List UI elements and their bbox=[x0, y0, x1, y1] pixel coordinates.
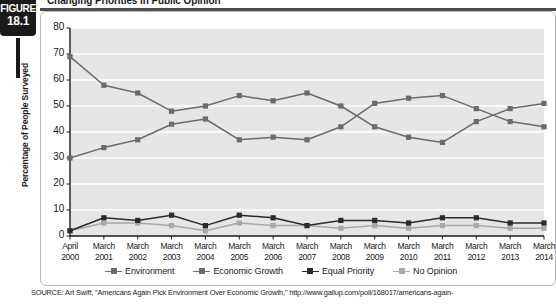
figure-badge-stem bbox=[16, 36, 20, 78]
data-point-marker bbox=[541, 101, 546, 106]
y-axis-tick-label: 30 bbox=[38, 151, 64, 162]
y-axis-tick-label: 20 bbox=[38, 177, 64, 188]
data-point-marker bbox=[508, 226, 513, 231]
data-point-marker bbox=[372, 218, 377, 223]
data-point-marker bbox=[338, 103, 343, 108]
data-point-marker bbox=[440, 140, 445, 145]
legend-item-equal-priority[interactable]: Equal Priority bbox=[302, 266, 374, 276]
data-point-marker bbox=[474, 106, 479, 111]
data-point-marker bbox=[101, 145, 106, 150]
legend-marker-icon bbox=[302, 267, 319, 276]
data-point-marker bbox=[135, 137, 140, 142]
data-point-marker bbox=[474, 215, 479, 220]
y-axis-tick-label: 60 bbox=[38, 73, 64, 84]
data-point-marker bbox=[135, 218, 140, 223]
data-point-marker bbox=[203, 223, 208, 228]
x-axis-tick-label: March2014 bbox=[524, 241, 556, 263]
legend-square bbox=[111, 268, 117, 274]
data-point-marker bbox=[406, 220, 411, 225]
chart-legend: EnvironmentEconomic GrowthEqual Priority… bbox=[105, 266, 457, 276]
data-point-marker bbox=[169, 213, 174, 218]
legend-label: Equal Priority bbox=[322, 266, 374, 276]
data-point-marker bbox=[101, 83, 106, 88]
data-point-marker bbox=[304, 223, 309, 228]
data-point-marker bbox=[237, 213, 242, 218]
legend-marker-icon bbox=[105, 267, 122, 276]
y-axis-tick-label: 40 bbox=[38, 125, 64, 136]
data-point-marker bbox=[237, 137, 242, 142]
data-point-marker bbox=[406, 96, 411, 101]
data-point-marker bbox=[67, 228, 72, 233]
x-tick-month: March bbox=[524, 241, 556, 252]
legend-square bbox=[199, 268, 205, 274]
data-point-marker bbox=[541, 124, 546, 129]
figure-badge-number: 18.1 bbox=[0, 15, 36, 28]
line-chart: Percentage of People Surveyed 0102030405… bbox=[0, 0, 556, 306]
data-point-marker bbox=[101, 220, 106, 225]
data-point-marker bbox=[237, 93, 242, 98]
data-point-marker bbox=[541, 220, 546, 225]
data-point-marker bbox=[203, 116, 208, 121]
data-point-marker bbox=[135, 90, 140, 95]
data-point-marker bbox=[440, 223, 445, 228]
data-point-marker bbox=[440, 93, 445, 98]
data-point-marker bbox=[271, 223, 276, 228]
data-point-marker bbox=[169, 223, 174, 228]
data-point-marker bbox=[338, 124, 343, 129]
data-point-marker bbox=[508, 220, 513, 225]
data-point-marker bbox=[203, 103, 208, 108]
legend-marker-icon bbox=[393, 267, 410, 276]
data-point-marker bbox=[338, 218, 343, 223]
legend-label: No Opinion bbox=[413, 266, 457, 276]
figure-badge: FIGURE 18.1 bbox=[0, 0, 36, 36]
data-point-marker bbox=[508, 119, 513, 124]
legend-marker-icon bbox=[193, 267, 210, 276]
data-point-marker bbox=[67, 54, 72, 59]
x-tick-year: 2014 bbox=[524, 252, 556, 263]
data-point-marker bbox=[169, 122, 174, 127]
data-point-marker bbox=[508, 106, 513, 111]
data-point-marker bbox=[406, 226, 411, 231]
legend-square bbox=[307, 268, 313, 274]
data-point-marker bbox=[338, 226, 343, 231]
legend-item-economic-growth[interactable]: Economic Growth bbox=[193, 266, 283, 276]
data-point-marker bbox=[474, 223, 479, 228]
legend-item-environment[interactable]: Environment bbox=[105, 266, 174, 276]
data-point-marker bbox=[541, 226, 546, 231]
data-point-marker bbox=[372, 223, 377, 228]
data-point-marker bbox=[169, 109, 174, 114]
data-point-marker bbox=[440, 215, 445, 220]
y-axis-tick-label: 50 bbox=[38, 99, 64, 110]
data-point-marker bbox=[271, 135, 276, 140]
source-note: SOURCE: Art Swift, "Americans Again Pick… bbox=[31, 288, 556, 297]
data-point-marker bbox=[101, 215, 106, 220]
data-point-marker bbox=[304, 90, 309, 95]
data-point-marker bbox=[237, 220, 242, 225]
y-axis-tick-label: 0 bbox=[38, 229, 64, 240]
legend-label: Economic Growth bbox=[213, 266, 283, 276]
data-point-marker bbox=[372, 124, 377, 129]
y-axis-tick-label: 80 bbox=[38, 21, 64, 32]
legend-square bbox=[399, 268, 405, 274]
data-point-marker bbox=[203, 228, 208, 233]
y-axis-tick-label: 10 bbox=[38, 203, 64, 214]
data-point-marker bbox=[304, 137, 309, 142]
y-axis-tick-label: 70 bbox=[38, 47, 64, 58]
data-point-marker bbox=[406, 135, 411, 140]
data-point-marker bbox=[474, 119, 479, 124]
legend-item-no-opinion[interactable]: No Opinion bbox=[393, 266, 457, 276]
legend-label: Environment bbox=[125, 266, 174, 276]
data-point-marker bbox=[271, 215, 276, 220]
data-point-marker bbox=[372, 101, 377, 106]
data-point-marker bbox=[271, 98, 276, 103]
data-point-marker bbox=[67, 155, 72, 160]
